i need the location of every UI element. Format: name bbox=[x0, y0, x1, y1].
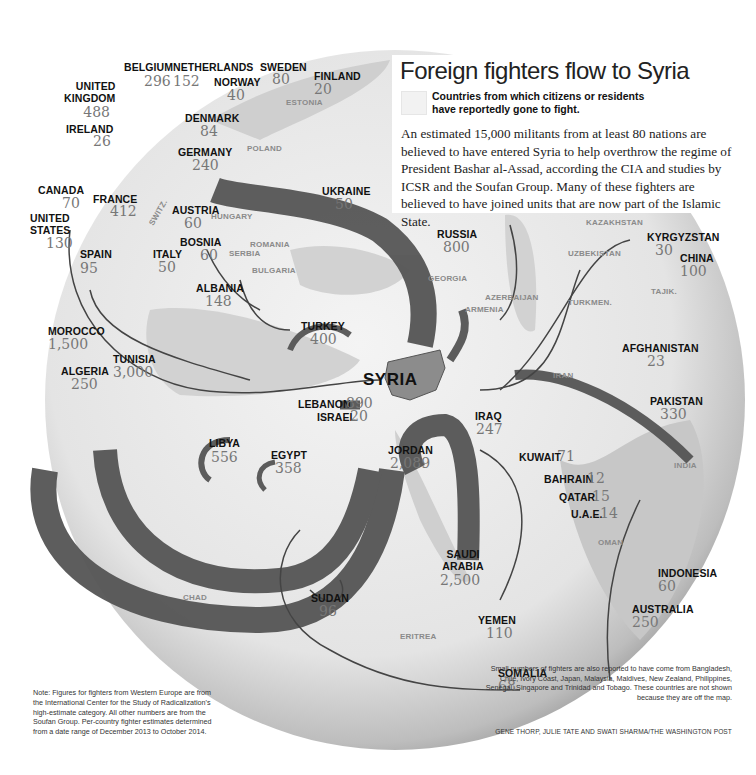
geo-label-eritrea: ERITREA bbox=[400, 632, 437, 641]
country-label-kuwait: KUWAIT bbox=[519, 451, 561, 463]
destination-label: SYRIA bbox=[363, 370, 417, 390]
country-value-qatar: 15 bbox=[592, 489, 610, 504]
country-value-turkey: 400 bbox=[310, 332, 337, 347]
legend-swatch bbox=[401, 91, 427, 115]
country-label-uk: UNITEDKINGDOM bbox=[64, 80, 115, 104]
country-value-yemen: 110 bbox=[486, 626, 513, 641]
geo-label-tajikistan: TAJIK. bbox=[651, 287, 677, 296]
country-value-australia: 250 bbox=[632, 615, 659, 630]
country-value-egypt: 358 bbox=[275, 461, 302, 476]
country-label-belgium: BELGIUM bbox=[124, 61, 173, 73]
country-value-libya: 556 bbox=[211, 450, 238, 465]
country-value-saudi-arabia: 2,500 bbox=[440, 573, 480, 588]
country-value-algeria: 250 bbox=[71, 377, 98, 392]
offmap-note: Small numbers of fighters are also repor… bbox=[484, 664, 732, 702]
country-value-uae: 14 bbox=[600, 506, 618, 521]
country-value-ireland: 26 bbox=[93, 134, 111, 149]
geo-label-uzbekistan: UZBEKISTAN bbox=[568, 249, 621, 258]
country-label-us: UNITEDSTATES bbox=[30, 212, 70, 236]
country-value-kyrgyzstan: 30 bbox=[655, 243, 673, 258]
intro-text: An estimated 15,000 militants from at le… bbox=[401, 125, 741, 230]
country-label-lebanon: LEBANON bbox=[298, 398, 351, 410]
geo-label-poland: POLAND bbox=[247, 144, 282, 153]
credit-line: GENE THORP, JULIE TATE AND SWATI SHARMA/… bbox=[480, 728, 732, 735]
geo-label-estonia: ESTONIA bbox=[286, 98, 323, 107]
country-value-kuwait: 71 bbox=[557, 449, 575, 464]
country-value-sudan: 96 bbox=[319, 604, 337, 619]
country-value-belgium: 296 bbox=[144, 74, 171, 89]
country-value-china: 100 bbox=[680, 264, 707, 279]
country-value-denmark: 84 bbox=[200, 124, 218, 139]
geo-label-serbia: SERBIA bbox=[229, 249, 260, 258]
geo-label-turkmenistan: TURKMEN. bbox=[568, 298, 612, 307]
country-value-iraq: 247 bbox=[476, 422, 503, 437]
country-value-france: 412 bbox=[110, 204, 137, 219]
geo-label-oman: OMAN bbox=[598, 538, 623, 547]
country-value-jordan: 2,089 bbox=[390, 456, 430, 471]
country-value-afghanistan: 23 bbox=[647, 354, 665, 369]
country-label-bahrain: BAHRAIN bbox=[544, 473, 593, 485]
country-value-netherlands: 152 bbox=[173, 74, 200, 89]
legend-label: Countries from which citizens or residen… bbox=[432, 90, 652, 116]
country-value-canada: 70 bbox=[62, 196, 80, 211]
country-value-bahrain: 12 bbox=[587, 471, 605, 486]
country-value-sweden: 80 bbox=[272, 72, 290, 87]
geo-label-georgia: GEORGIA bbox=[428, 274, 467, 283]
geo-label-hungary: HUNGARY bbox=[211, 212, 253, 221]
country-value-austria: 60 bbox=[184, 216, 202, 231]
country-value-ukraine: 50 bbox=[335, 197, 353, 212]
geo-label-azerbaijan: AZERBAIJAN bbox=[485, 293, 539, 302]
country-value-germany: 240 bbox=[192, 158, 219, 173]
country-value-us: 130 bbox=[46, 236, 73, 251]
country-label-saudi-arabia: SAUDIARABIA bbox=[438, 548, 488, 572]
country-value-uk: 488 bbox=[80, 105, 110, 120]
geo-label-bulgaria: BULGARIA bbox=[252, 266, 296, 275]
country-value-finland: 20 bbox=[314, 82, 332, 97]
country-value-tunisia: 3,000 bbox=[113, 365, 153, 380]
country-value-norway: 40 bbox=[227, 88, 245, 103]
info-panel: Foreign fighters flow to Syria Countries… bbox=[392, 55, 742, 213]
country-label-spain: SPAIN bbox=[80, 248, 112, 260]
country-value-pakistan: 330 bbox=[660, 407, 687, 422]
country-label-qatar: QATAR bbox=[559, 491, 595, 503]
geo-label-india: INDIA bbox=[674, 461, 697, 470]
geo-label-romania: ROMANIA bbox=[250, 240, 290, 249]
source-note: Note: Figures for fighters from Western … bbox=[33, 688, 213, 737]
country-value-indonesia: 60 bbox=[658, 579, 676, 594]
country-value-italy: 50 bbox=[158, 260, 176, 275]
country-label-libya: LIBYA bbox=[209, 437, 240, 449]
country-value-russia: 800 bbox=[443, 240, 470, 255]
country-label-netherlands: NETHERLANDS bbox=[173, 61, 253, 73]
country-value-israel: 20 bbox=[350, 409, 368, 424]
geo-label-armenia: ARMENIA bbox=[465, 305, 504, 314]
country-value-bosnia: 60 bbox=[200, 248, 218, 263]
geo-label-kazakhstan: KAZAKHSTAN bbox=[586, 218, 643, 227]
country-value-albania: 148 bbox=[205, 294, 232, 309]
country-label-uae: U.A.E. bbox=[571, 508, 603, 520]
country-value-spain: 95 bbox=[80, 261, 98, 276]
page-title: Foreign fighters flow to Syria bbox=[400, 57, 689, 85]
geo-label-iran: IRAN bbox=[553, 371, 573, 380]
country-value-morocco: 1,500 bbox=[48, 337, 88, 352]
geo-label-chad: CHAD bbox=[183, 593, 207, 602]
